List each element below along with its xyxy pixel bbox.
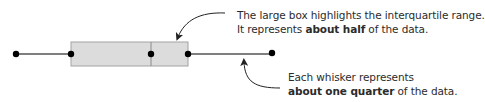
whisker-annotation-line1: Each whisker represents (288, 70, 457, 84)
whisker-arrow (244, 62, 280, 88)
iqr-arrow (178, 13, 225, 37)
whisker-annotation: Each whisker represents about one quarte… (288, 70, 457, 98)
iqr-annotation: The large box highlights the interquarti… (237, 8, 485, 36)
iqr-text-pre: It represents (237, 23, 305, 35)
whisker-text-post: of the data. (394, 85, 457, 97)
iqr-annotation-line2: It represents about half of the data. (237, 22, 485, 36)
min-point (13, 51, 19, 57)
median-point (148, 51, 154, 57)
whisker-annotation-line2: about one quarter of the data. (288, 84, 457, 98)
iqr-annotation-line1: The large box highlights the interquarti… (237, 8, 485, 22)
iqr-text-bold: about half (305, 23, 365, 35)
q1-point (68, 51, 74, 57)
whisker-text-bold: about one quarter (288, 85, 394, 97)
max-point (269, 50, 275, 56)
q3-point (185, 51, 191, 57)
iqr-text-post: of the data. (365, 23, 428, 35)
iqr-box (71, 42, 188, 66)
